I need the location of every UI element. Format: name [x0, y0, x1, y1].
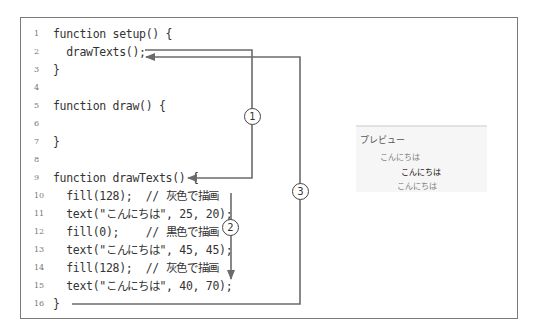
- preview-text-gray-1: こんにちは: [380, 151, 420, 162]
- step-1-badge: 1: [244, 108, 261, 125]
- arrow-3-return: [72, 57, 300, 304]
- preview-panel: プレビュー こんにちは こんにちは こんにちは: [356, 125, 487, 192]
- preview-text-gray-2: こんにちは: [397, 180, 437, 191]
- arrow-1-call: [145, 50, 252, 178]
- step-2-badge: 2: [222, 219, 239, 236]
- preview-title: プレビュー: [360, 133, 405, 146]
- preview-text-black: こんにちは: [401, 166, 441, 177]
- step-3-badge: 3: [292, 183, 309, 200]
